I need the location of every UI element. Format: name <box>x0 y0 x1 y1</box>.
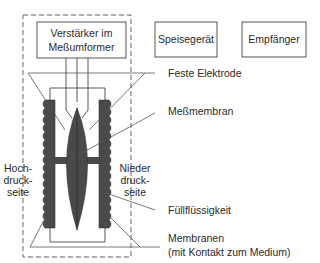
receiver-box: Empfänger <box>242 22 306 57</box>
measuring-membrane-label: Meßmembran <box>168 105 234 117</box>
amplifier-label-line2: Meßumformer <box>49 41 115 53</box>
right-membrane-body <box>85 100 111 228</box>
high-pressure-label-line3: seite <box>7 186 29 198</box>
low-pressure-label-line3: seite <box>124 186 146 198</box>
bottom-frame <box>50 228 105 242</box>
power-supply-box: Speisegerät <box>155 22 217 57</box>
fixed-electrode-label: Feste Elektrode <box>168 67 242 79</box>
high-pressure-label-line1: Hoch- <box>4 162 33 174</box>
measuring-membrane <box>67 108 88 230</box>
fill-fluid-label: Füllflüssigkeit <box>168 204 231 216</box>
high-pressure-label-line2: druck- <box>3 174 33 186</box>
low-pressure-label-line1: Nieder <box>120 162 151 174</box>
amplifier-label-line1: Verstärker im <box>51 27 113 39</box>
capacitive-pressure-sensor-diagram: Verstärker im Meßumformer Speisegerät Em… <box>0 0 320 263</box>
membranes-label-line2: (mit Kontakt zum Medium) <box>168 246 291 258</box>
receiver-label: Empfänger <box>248 33 300 45</box>
left-membrane-body <box>43 100 69 228</box>
low-pressure-label-line2: druck- <box>120 174 150 186</box>
membranes-label-line1: Membranen <box>168 232 224 244</box>
amplifier-box: Verstärker im Meßumformer <box>37 22 126 58</box>
power-supply-label: Speisegerät <box>158 33 214 45</box>
